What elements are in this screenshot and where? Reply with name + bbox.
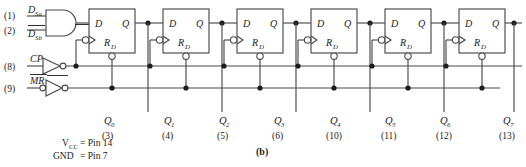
output-sub-q0: 0: [111, 121, 115, 128]
output-pin-q5: (11): [381, 131, 396, 142]
gnd-label: GND: [53, 151, 74, 161]
ff5-q-label: Q: [492, 18, 500, 29]
output-sub-q1: 1: [171, 121, 174, 128]
vcc-sub: CC: [69, 143, 79, 150]
pin-number-8: (8): [4, 62, 15, 73]
output-sub-q7: 7: [510, 121, 514, 128]
input-label-mr: MR: [29, 75, 44, 86]
ff0-r-label: R: [103, 37, 110, 48]
ff1-q-label: Q: [196, 18, 204, 29]
ff1-d-label: D: [168, 18, 177, 29]
ff5-r-sub: D: [480, 43, 486, 50]
ff2-r-label: R: [251, 37, 258, 48]
output-sub-q3: 3: [280, 121, 285, 128]
output-sub-q6: 6: [447, 121, 451, 128]
ff0-q-label: Q: [122, 18, 130, 29]
ff4-r-sub: D: [406, 43, 412, 50]
pin-number-2: (2): [4, 26, 15, 37]
power-notes: V CC = Pin 14 GND = Pin 7: [53, 138, 113, 161]
ff2-r-sub: D: [258, 43, 264, 50]
ff4-d-label: D: [390, 18, 399, 29]
output-pin-q7: (13): [499, 131, 515, 142]
ff4-q-label: Q: [418, 18, 426, 29]
output-sub-q2: 2: [226, 121, 230, 128]
ff2-q-label: Q: [270, 18, 278, 29]
ff2-d-label: D: [242, 18, 251, 29]
output-pin-q3: (6): [272, 131, 283, 142]
output-labels: Q 0 (3) Q 1 (4) Q 2 (5) Q 3 (6) Q 4 (10)…: [102, 115, 515, 142]
input-label-cp: CP: [30, 53, 43, 64]
ff5-r-label: R: [473, 37, 480, 48]
ff1-r-label: R: [177, 37, 184, 48]
vcc-label: V: [62, 138, 69, 148]
pin-number-1: (1): [4, 11, 15, 22]
ff5-d-label: D: [464, 18, 473, 29]
output-pin-q2: (5): [217, 131, 228, 142]
flipflop-5: [443, 9, 522, 112]
ff4-r-label: R: [399, 37, 406, 48]
gnd-value: = Pin 7: [80, 151, 108, 161]
output-pin-q6: (12): [436, 131, 452, 142]
ff0-r-sub: D: [110, 43, 116, 50]
vcc-value: = Pin 14: [80, 138, 113, 148]
figure-container: (1) (2) (8) (9) D Sa D Sb CP MR D Q R D …: [0, 0, 526, 167]
ff3-q-label: Q: [344, 18, 352, 29]
output-pin-q4: (10): [326, 131, 342, 142]
output-sub-q4: 4: [337, 121, 341, 128]
figure-caption: (b): [256, 146, 268, 158]
pin-number-9: (9): [4, 84, 15, 95]
mr-inverter: [27, 80, 500, 96]
input-sub-dsa: Sa: [35, 10, 42, 17]
output-pin-q1: (4): [162, 131, 173, 142]
output-sub-q5: 5: [392, 121, 396, 128]
ff0-d-label: D: [94, 18, 103, 29]
ff3-d-label: D: [316, 18, 325, 29]
input-sub-dsb: Sb: [35, 34, 42, 41]
ff3-r-label: R: [325, 37, 332, 48]
ff1-r-sub: D: [184, 43, 190, 50]
shift-register-schematic: (1) (2) (8) (9) D Sa D Sb CP MR D Q R D …: [0, 0, 526, 167]
ff3-r-sub: D: [332, 43, 338, 50]
